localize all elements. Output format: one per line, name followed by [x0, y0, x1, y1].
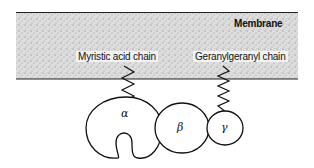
- beta-symbol: β: [177, 121, 183, 134]
- myristic-acid-chain-label: Myristic acid chain: [76, 51, 158, 62]
- gamma-symbol: γ: [221, 121, 228, 134]
- alpha-symbol: α: [121, 107, 128, 120]
- geranylgeranyl-chain-label: Geranylgeranyl chain: [193, 51, 288, 62]
- membrane-label: Membrane: [234, 18, 282, 29]
